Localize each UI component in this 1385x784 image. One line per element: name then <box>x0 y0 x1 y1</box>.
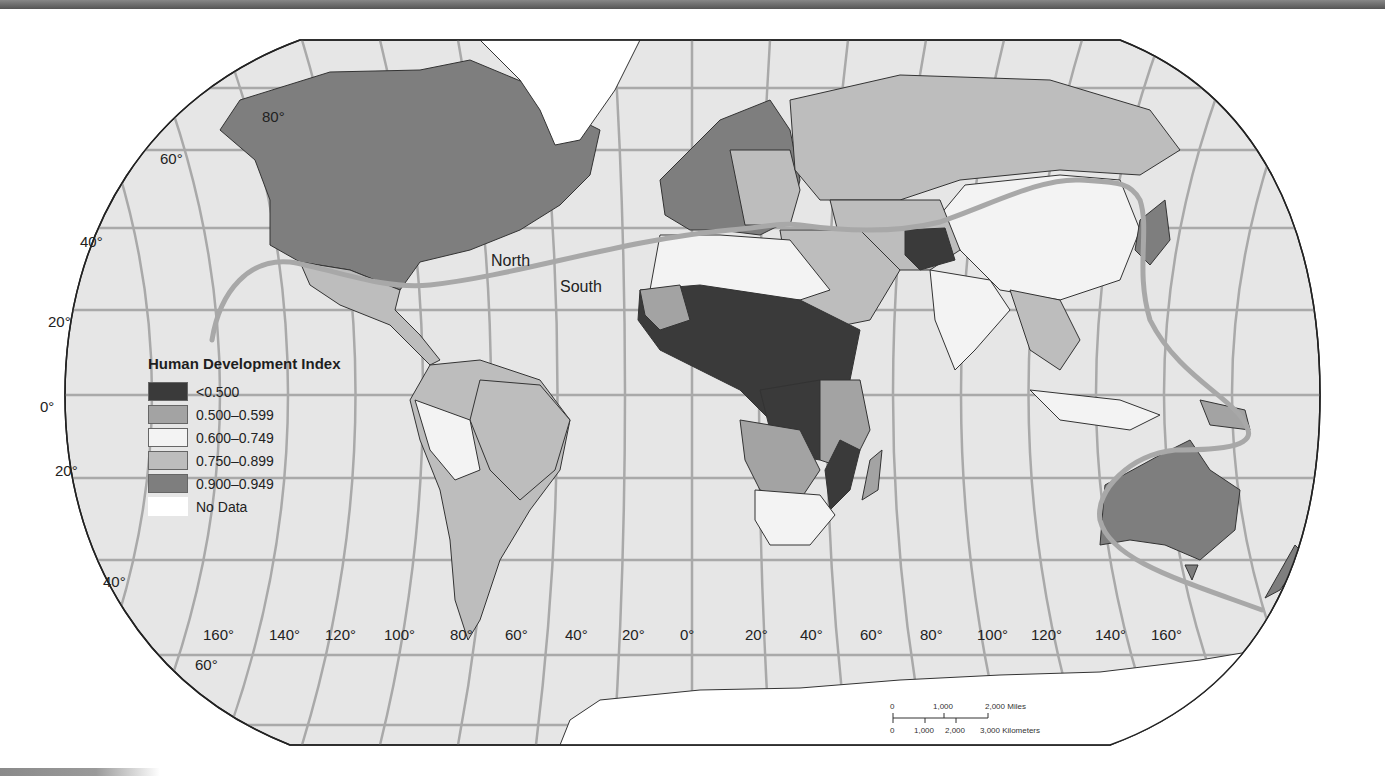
lon-label-60w: 60° <box>505 626 528 643</box>
lon-label-40w: 40° <box>565 626 588 643</box>
scale-bar: 0 1,000 2,000 Miles 0 1,000 2,000 3,000 … <box>890 700 1080 740</box>
legend-label: 0.750–0.899 <box>196 453 274 469</box>
scale-km-0: 0 <box>890 726 894 735</box>
scale-km-2000: 2,000 <box>945 726 965 735</box>
legend-swatch <box>148 451 188 470</box>
scale-miles-2000: 2,000 Miles <box>985 702 1026 711</box>
lon-label-80e: 80° <box>920 626 943 643</box>
north-label: North <box>491 252 530 270</box>
legend-label: <0.500 <box>196 384 239 400</box>
lat-label-20s: 20° <box>55 462 78 479</box>
legend-item-0750-0899: 0.750–0.899 <box>148 449 341 472</box>
south-label: South <box>560 278 602 296</box>
lon-label-60e: 60° <box>860 626 883 643</box>
lat-label-0: 0° <box>40 398 54 415</box>
lon-label-40e: 40° <box>800 626 823 643</box>
legend-item-0600-0749: 0.600–0.749 <box>148 426 341 449</box>
legend-swatch <box>148 428 188 447</box>
legend-swatch <box>148 497 188 516</box>
lat-label-40s: 40° <box>103 573 126 590</box>
legend-item-no-data: No Data <box>148 495 341 518</box>
lon-label-120e: 120° <box>1031 626 1062 643</box>
legend-title: Human Development Index <box>148 355 341 372</box>
lon-label-20e: 20° <box>745 626 768 643</box>
legend-label: 0.500–0.599 <box>196 407 274 423</box>
lon-label-0: 0° <box>680 626 694 643</box>
scale-km-3000: 3,000 Kilometers <box>980 726 1040 735</box>
legend-label: 0.600–0.749 <box>196 430 274 446</box>
lat-label-60n: 60° <box>160 150 183 167</box>
legend-label: 0.900–0.949 <box>196 476 274 492</box>
lon-label-100e: 100° <box>977 626 1008 643</box>
lat-label-60s: 60° <box>195 656 218 673</box>
scale-miles-0: 0 <box>890 702 894 711</box>
lon-label-160w: 160° <box>203 626 234 643</box>
lon-label-120w: 120° <box>325 626 356 643</box>
lon-label-80w: 80° <box>450 626 473 643</box>
lon-label-160e: 160° <box>1151 626 1182 643</box>
lat-label-40n: 40° <box>80 233 103 250</box>
legend-label: No Data <box>196 499 247 515</box>
lon-label-20w: 20° <box>622 626 645 643</box>
legend-swatch <box>148 474 188 493</box>
legend-swatch <box>148 405 188 424</box>
scale-km-1000: 1,000 <box>914 726 934 735</box>
legend-swatch <box>148 382 188 401</box>
scale-miles-1000: 1,000 <box>933 702 953 711</box>
legend-item-lt-0500: <0.500 <box>148 380 341 403</box>
legend-item-0500-0599: 0.500–0.599 <box>148 403 341 426</box>
legend-item-0900-0949: 0.900–0.949 <box>148 472 341 495</box>
lon-label-140w: 140° <box>269 626 300 643</box>
lon-label-140e: 140° <box>1095 626 1126 643</box>
bottom-rule <box>0 768 160 776</box>
lat-label-20n: 20° <box>48 313 71 330</box>
legend: Human Development Index <0.500 0.500–0.5… <box>148 355 341 518</box>
lat-label-80n: 80° <box>262 108 285 125</box>
lon-label-100w: 100° <box>384 626 415 643</box>
